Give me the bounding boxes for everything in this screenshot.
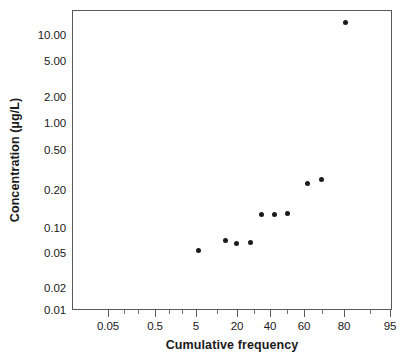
y-tick-label-0-02: 0.02 [44,282,66,294]
x-tick-5 [196,310,197,317]
y-tick-label-2: 2.00 [44,91,66,103]
y-tick-label-10: 10.00 [38,29,66,41]
data-point [285,211,290,216]
x-tick-minor-90 [370,310,371,314]
data-point [234,241,239,246]
data-point [305,181,310,186]
data-point [272,212,277,217]
x-axis-title: Cumulative frequency [72,338,392,352]
x-tick-60 [304,310,305,317]
x-tick-label-5: 5 [193,320,199,332]
data-point [319,177,324,182]
y-tick-label-0-20: 0.20 [44,184,66,196]
x-tick-label-60: 60 [298,320,311,332]
x-tick-label-20: 20 [231,320,244,332]
x-tick-0-05 [108,310,109,317]
x-tick-minor-0-2 [138,310,139,314]
data-point [223,238,228,243]
y-tick-label-0-05: 0.05 [44,247,66,259]
x-tick-label-0-5: 0.5 [147,320,163,332]
data-point [343,20,348,25]
data-point [259,212,264,217]
x-tick-label-95: 95 [384,320,397,332]
y-tick-label-0-10: 0.10 [44,222,66,234]
x-tick-95 [390,310,391,317]
x-tick-minor-10 [217,310,218,314]
y-tick-label-0-50: 0.50 [44,144,66,156]
x-tick-minor-50 [287,310,288,314]
plot-area [72,10,392,310]
x-tick-0-5 [155,310,156,317]
y-tick-label-5: 5.00 [44,55,66,67]
y-tick-label-0-01: 0.01 [44,304,66,316]
y-axis-title: Concentration (µg/L) [4,0,26,320]
chart-figure: Concentration (µg/L) 10.00 5.00 2.00 1.0… [0,0,404,360]
x-tick-label-40: 40 [264,320,277,332]
x-tick-minor-30 [254,310,255,314]
x-tick-80 [344,310,345,317]
data-point [248,240,253,245]
x-tick-40 [270,310,271,317]
x-tick-minor-2 [182,310,183,314]
data-point [196,248,201,253]
x-tick-label-80: 80 [338,320,351,332]
x-tick-minor-70 [322,310,323,314]
x-tick-minor-0-1 [124,310,125,314]
x-tick-20 [237,310,238,317]
y-axis-title-text: Concentration (µg/L) [8,98,22,222]
scatter-series [73,11,391,309]
y-tick-label-1: 1.00 [44,117,66,129]
x-tick-label-0-05: 0.05 [97,320,119,332]
x-tick-minor-1 [169,310,170,314]
